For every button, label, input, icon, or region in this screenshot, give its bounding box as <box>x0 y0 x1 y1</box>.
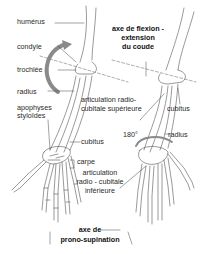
anatomy-illustration <box>0 0 203 254</box>
label-axe-flexion-3: du coude <box>106 43 170 51</box>
label-axe-prono-1: axe de <box>52 226 128 234</box>
label-axe-flexion-1: axe de flexion - <box>106 25 170 33</box>
right-elbow-axis <box>112 60 196 82</box>
label-condyle: condyle <box>17 43 42 51</box>
label-angle-180: 180° <box>123 131 138 139</box>
label-axe-prono-2: prono-supination <box>50 236 130 244</box>
right-hand <box>136 146 194 224</box>
label-trochlee: trochlée <box>17 66 43 74</box>
label-art-inf-1: articulation <box>74 169 126 177</box>
label-art-inf-3: inférieure <box>74 187 126 195</box>
label-radius-right: radius <box>168 131 188 139</box>
leader-lines <box>48 23 180 244</box>
label-carpe: carpe <box>77 158 95 166</box>
flexion-arrow <box>47 44 66 92</box>
left-humerus <box>75 6 96 74</box>
left-elbow-axis <box>40 56 128 82</box>
label-humerus: humérus <box>17 18 45 26</box>
label-art-inf-2: radio - cubitale <box>72 178 128 186</box>
label-cubitus-left: cubitus <box>81 138 104 146</box>
left-hand <box>12 146 81 222</box>
label-radius-left: radius <box>17 88 37 96</box>
label-art-sup-1: articulation radio- <box>81 96 136 104</box>
label-axe-flexion-2: extension <box>106 34 170 42</box>
label-art-sup-2: cubitale supérieure <box>81 105 142 113</box>
label-cubitus-right: cubitus <box>167 105 190 113</box>
label-styloides: styloïdes <box>17 112 45 120</box>
